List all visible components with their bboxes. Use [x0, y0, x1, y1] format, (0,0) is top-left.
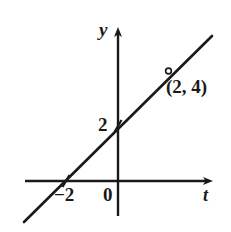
origin-label: 0	[103, 185, 113, 204]
y-intercept-tick-label: 2	[98, 115, 108, 134]
point-coordinate-label: (2, 4)	[166, 77, 207, 96]
y-axis-label: y	[99, 20, 107, 39]
graph-figure: y t 2 −2 0 (2, 4)	[0, 0, 231, 232]
x-intercept-tick-label: −2	[54, 185, 74, 204]
open-circle-marker	[166, 68, 172, 74]
coordinate-plot	[0, 0, 231, 232]
x-axis-label: t	[203, 186, 208, 204]
